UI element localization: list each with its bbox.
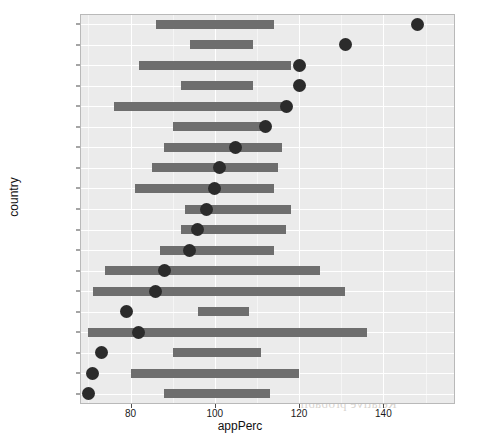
- range-bar: [139, 61, 291, 70]
- x-tick-label: 80: [125, 408, 136, 419]
- x-tick-label: 120: [291, 408, 308, 419]
- point-marker: [158, 264, 171, 277]
- y-tick-mark: [76, 126, 80, 127]
- y-tick-mark: [76, 209, 80, 210]
- x-tick-mark: [383, 404, 384, 408]
- point-marker: [149, 285, 162, 298]
- x-tick-mark: [299, 404, 300, 408]
- range-bar: [114, 102, 287, 111]
- y-axis-label: country: [7, 147, 21, 247]
- point-marker: [293, 79, 306, 92]
- point-marker: [280, 100, 293, 113]
- point-marker: [293, 59, 306, 72]
- y-tick-mark: [76, 352, 80, 353]
- y-tick-mark: [76, 229, 80, 230]
- y-tick-mark: [76, 393, 80, 394]
- range-bar: [164, 389, 269, 398]
- point-marker: [411, 18, 424, 31]
- y-tick-mark: [76, 167, 80, 168]
- y-tick-mark: [76, 106, 80, 107]
- y-tick-mark: [76, 24, 80, 25]
- range-bar: [190, 40, 253, 49]
- y-tick-mark: [76, 188, 80, 189]
- point-marker: [200, 203, 213, 216]
- y-tick-mark: [76, 85, 80, 86]
- x-tick-mark: [215, 404, 216, 408]
- y-tick-mark: [76, 65, 80, 66]
- range-bar: [135, 184, 274, 193]
- y-tick-mark: [76, 147, 80, 148]
- y-tick-mark: [76, 44, 80, 45]
- range-bar: [181, 81, 253, 90]
- x-tick-mark: [131, 404, 132, 408]
- x-tick-label: 100: [206, 408, 223, 419]
- range-bar: [93, 287, 346, 296]
- point-marker: [120, 305, 133, 318]
- x-tick-label: 140: [375, 408, 392, 419]
- y-tick-mark: [76, 291, 80, 292]
- range-bar: [156, 20, 274, 29]
- y-tick-mark: [76, 373, 80, 374]
- range-bar: [131, 369, 300, 378]
- range-bar: [198, 307, 249, 316]
- range-bar: [173, 348, 261, 357]
- range-bar: [105, 266, 320, 275]
- gridline-horizontal: [80, 353, 455, 354]
- gridline-horizontal: [80, 86, 455, 87]
- gridline-horizontal: [80, 312, 455, 313]
- x-axis-label: appPerc: [0, 419, 480, 433]
- y-tick-mark: [76, 250, 80, 251]
- chart-container: not only did the they suggested that Rel…: [0, 0, 480, 440]
- point-marker: [95, 346, 108, 359]
- point-marker: [183, 244, 196, 257]
- gridline-horizontal: [80, 45, 455, 46]
- range-bar: [173, 122, 270, 131]
- range-bar: [88, 328, 366, 337]
- y-tick-mark: [76, 332, 80, 333]
- point-marker: [86, 367, 99, 380]
- y-tick-mark: [76, 270, 80, 271]
- point-marker: [213, 161, 226, 174]
- y-tick-mark: [76, 311, 80, 312]
- range-bar: [164, 143, 282, 152]
- range-bar: [160, 246, 274, 255]
